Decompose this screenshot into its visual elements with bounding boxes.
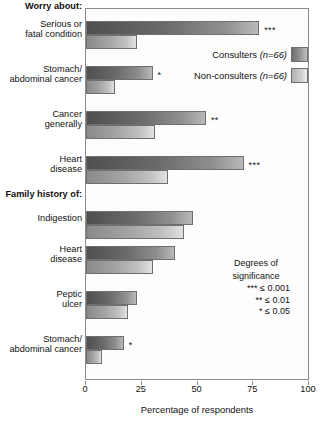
category-label-fh-stomach-cancer-line2: abdominal cancer: [1, 345, 85, 355]
category-label-serious-or-fatal-condition-line2: fatal condition: [1, 30, 85, 40]
category-label-fh-heart-disease-line2: disease: [1, 255, 85, 265]
x-axis-title: Percentage of respondents: [85, 404, 309, 415]
significance-key-row-2: * ≤ 0.05: [208, 306, 304, 318]
legend: Consulters (n=66) Non-consulters (n=66): [150, 46, 308, 88]
bar-chart: Worry about: Serious or fatal condition …: [0, 0, 323, 423]
significance-marker-cancer-generally: **: [211, 115, 219, 125]
x-axis-tick-label-25: 25: [136, 384, 146, 394]
significance-key: Degrees of significance *** ≤ 0.001 ** ≤…: [208, 258, 304, 318]
bar-nonconsulters-serious-or-fatal-condition: [86, 35, 137, 49]
x-axis-tick-label-75: 75: [247, 384, 257, 394]
bar-consulters-worry-heart-disease: [86, 156, 244, 170]
significance-marker-serious-or-fatal-condition: ***: [264, 25, 276, 35]
significance-key-title-line2: significance: [208, 271, 304, 283]
significance-key-row-1: ** ≤ 0.01: [208, 295, 304, 307]
section-label-worry: Worry about:: [1, 2, 85, 12]
x-axis-tick-label-100: 100: [300, 384, 315, 394]
category-label-worry-heart-disease-line2: disease: [1, 165, 85, 175]
x-axis: 0255075100: [85, 381, 309, 391]
legend-label-consulters: Consulters (n=66): [212, 49, 287, 60]
section-label-family-history: Family history of:: [1, 190, 85, 200]
bar-consulters-fh-stomach-cancer: [86, 336, 124, 350]
x-axis-tick-label-0: 0: [82, 384, 87, 394]
category-axis-labels: Worry about: Serious or fatal condition …: [0, 0, 85, 423]
legend-swatch-consulters: [291, 47, 308, 62]
category-label-peptic-ulcer-line2: ulcer: [1, 300, 85, 310]
bar-consulters-indigestion: [86, 211, 193, 225]
bar-nonconsulters-worry-heart-disease: [86, 170, 168, 184]
legend-item-nonconsulters: Non-consulters (n=66): [150, 67, 308, 83]
legend-item-consulters: Consulters (n=66): [150, 46, 308, 62]
category-label-cancer-generally-line2: generally: [1, 120, 85, 130]
bar-nonconsulters-fh-stomach-cancer: [86, 350, 102, 364]
bar-nonconsulters-indigestion: [86, 225, 184, 239]
bar-consulters-fh-heart-disease: [86, 246, 175, 260]
bar-consulters-cancer-generally: [86, 111, 206, 125]
bar-nonconsulters-worry-stomach-cancer: [86, 80, 115, 94]
significance-key-title-line1: Degrees of: [208, 258, 304, 270]
significance-marker-worry-heart-disease: ***: [249, 160, 261, 170]
bar-nonconsulters-cancer-generally: [86, 125, 155, 139]
legend-label-nonconsulters: Non-consulters (n=66): [194, 70, 287, 81]
bar-consulters-worry-stomach-cancer: [86, 66, 153, 80]
x-axis-tick-label-50: 50: [191, 384, 201, 394]
significance-marker-fh-stomach-cancer: *: [129, 340, 133, 350]
significance-key-row-0: *** ≤ 0.001: [208, 283, 304, 295]
bar-nonconsulters-peptic-ulcer: [86, 305, 128, 319]
category-label-worry-stomach-cancer-line2: abdominal cancer: [1, 75, 85, 85]
legend-swatch-nonconsulters: [291, 68, 308, 83]
bar-nonconsulters-fh-heart-disease: [86, 260, 153, 274]
bar-consulters-serious-or-fatal-condition: [86, 21, 259, 35]
category-label-indigestion: Indigestion: [1, 214, 85, 224]
bar-consulters-peptic-ulcer: [86, 291, 137, 305]
